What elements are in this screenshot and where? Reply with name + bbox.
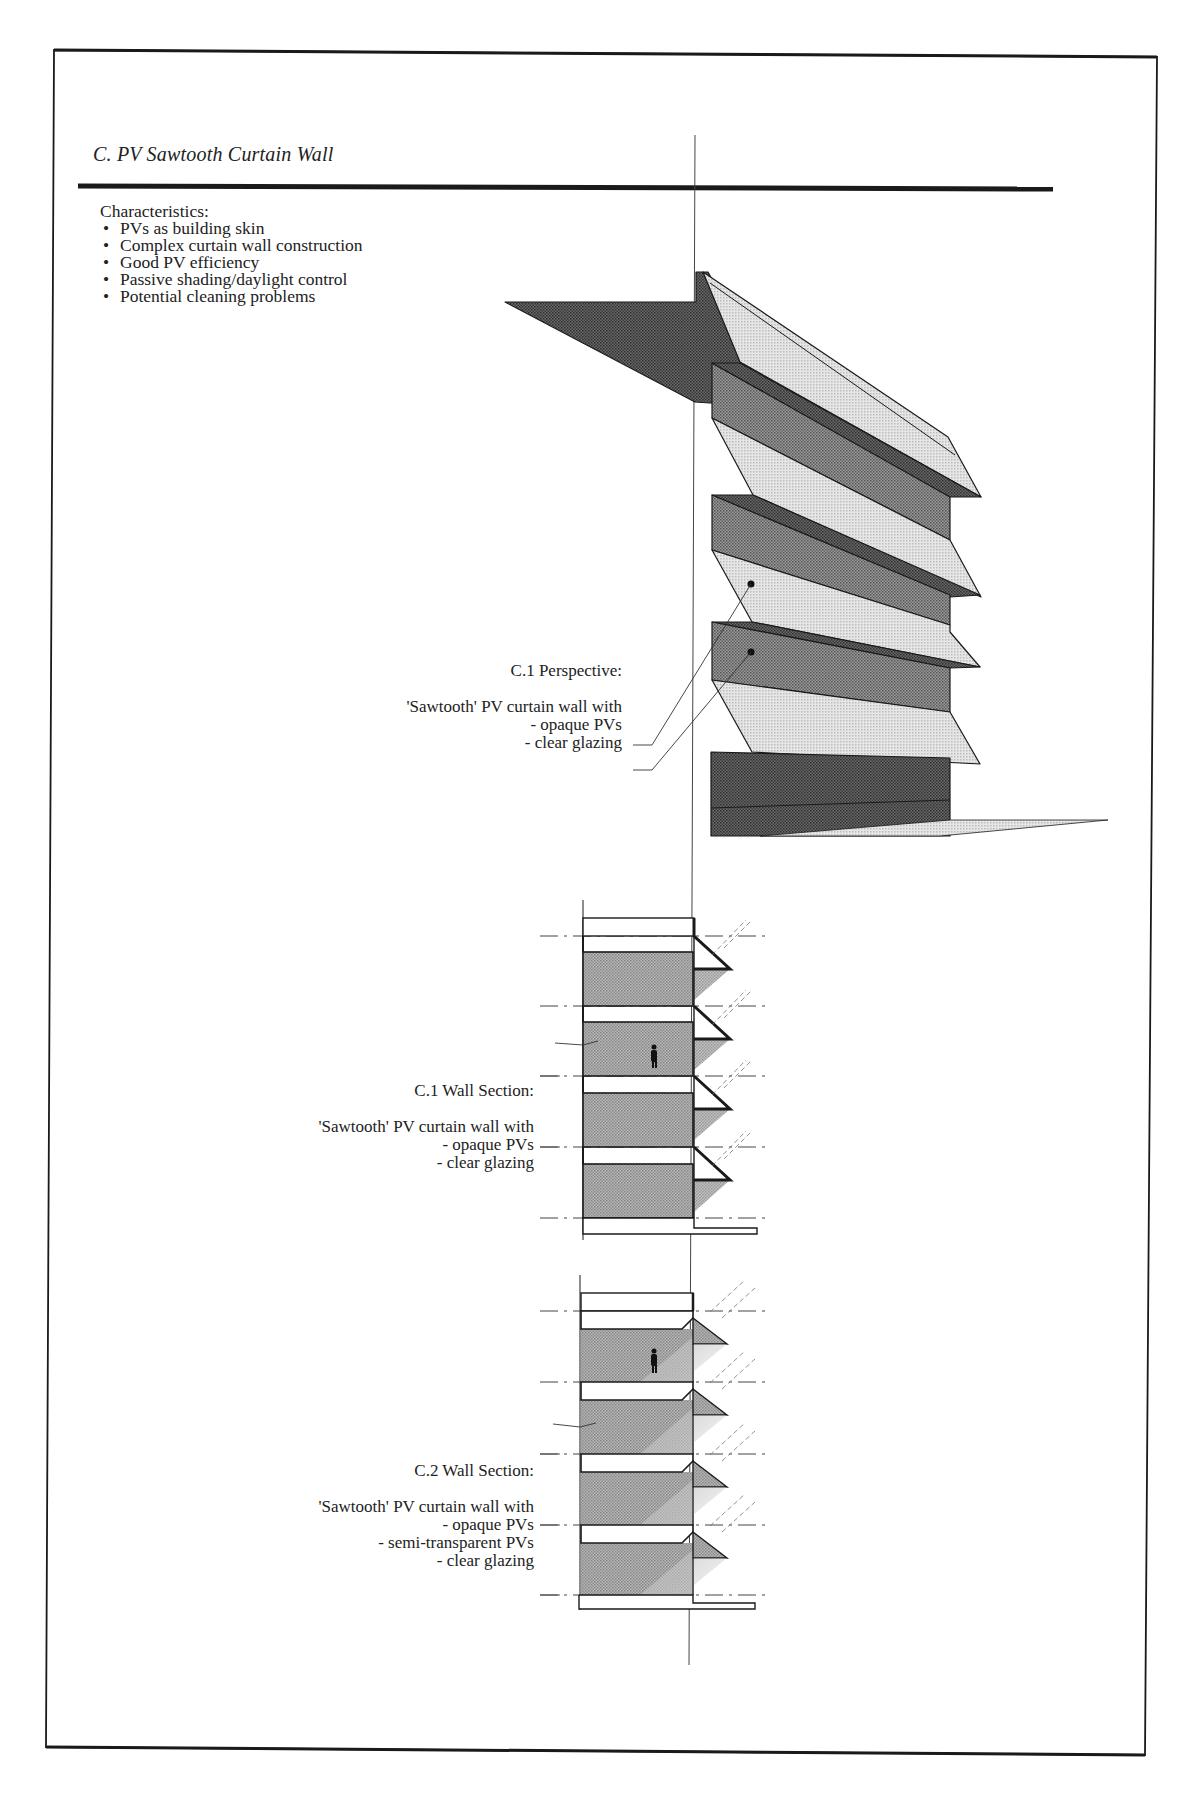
wall-section-2-drawing [540, 1275, 770, 1610]
wall-section-2-caption-item: - opaque PVs [319, 1516, 534, 1534]
perspective-caption-item: - clear glazing [407, 734, 622, 752]
characteristic-item: Potential cleaning problems [100, 288, 363, 305]
perspective-caption-description: 'Sawtooth' PV curtain wall with [407, 698, 622, 716]
section-title: C. PV Sawtooth Curtain Wall [93, 143, 333, 166]
wall-section-1-caption-item: - clear glazing [319, 1154, 534, 1172]
caption-leaders [540, 1076, 560, 1595]
wall-section-2-caption-item: - clear glazing [319, 1552, 534, 1570]
wall-section-1-drawing [540, 900, 770, 1240]
wall-section-2-caption-item: - semi-transparent PVs [319, 1534, 534, 1552]
header-rule [78, 186, 1053, 189]
wall-section-1-caption: C.1 Wall Section: 'Sawtooth' PV curtain … [319, 1082, 534, 1172]
wall-section-2-caption-description: 'Sawtooth' PV curtain wall with [319, 1498, 534, 1516]
wall-section-1-caption-description: 'Sawtooth' PV curtain wall with [319, 1118, 534, 1136]
wall-section-1-caption-item: - opaque PVs [319, 1136, 534, 1154]
perspective-caption: C.1 Perspective: 'Sawtooth' PV curtain w… [407, 662, 622, 752]
characteristics-list: PVs as building skin Complex curtain wal… [100, 220, 363, 305]
perspective-caption-title: C.1 Perspective: [407, 662, 622, 680]
wall-section-2-caption-title: C.2 Wall Section: [319, 1462, 534, 1480]
wall-section-1-caption-title: C.1 Wall Section: [319, 1082, 534, 1100]
wall-section-2-caption: C.2 Wall Section: 'Sawtooth' PV curtain … [319, 1462, 534, 1570]
perspective-caption-item: - opaque PVs [407, 716, 622, 734]
characteristics-block: Characteristics: PVs as building skin Co… [100, 203, 363, 305]
